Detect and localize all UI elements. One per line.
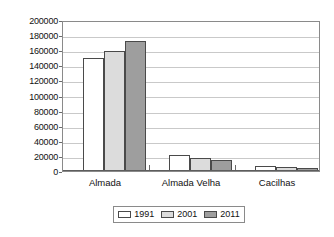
bar-chart: 200000 180000 160000 140000 120000 10000… bbox=[0, 0, 334, 237]
plot-area bbox=[62, 21, 320, 172]
y-tick-label: 200000 bbox=[6, 17, 58, 26]
legend-entry-2001: 2001 bbox=[161, 210, 197, 219]
legend-entry-1991: 1991 bbox=[118, 210, 154, 219]
bar-almada-2001 bbox=[104, 51, 125, 171]
gridline bbox=[63, 52, 319, 53]
bar-almada-velha-1991 bbox=[169, 155, 190, 171]
chart-legend: 1991 2001 2011 bbox=[113, 206, 245, 223]
legend-label: 2011 bbox=[220, 210, 239, 219]
y-tick-label: 40000 bbox=[6, 138, 58, 147]
bar-almada-2011 bbox=[125, 41, 146, 171]
legend-swatch-icon bbox=[118, 211, 131, 218]
y-tick-label: 60000 bbox=[6, 123, 58, 132]
y-tick-label: 20000 bbox=[6, 153, 58, 162]
category-label-cacilhas: Cacilhas bbox=[234, 177, 320, 188]
y-tick-label: 140000 bbox=[6, 62, 58, 71]
y-tick-label: 120000 bbox=[6, 77, 58, 86]
y-tick-label: 0 bbox=[6, 168, 58, 177]
legend-label: 2001 bbox=[177, 210, 197, 219]
gridline bbox=[63, 37, 319, 38]
legend-entry-2011: 2011 bbox=[204, 210, 239, 219]
bar-almada-1991 bbox=[83, 58, 104, 171]
legend-label: 1991 bbox=[134, 210, 154, 219]
legend-swatch-icon bbox=[161, 211, 174, 218]
y-tick-label: 180000 bbox=[6, 32, 58, 41]
category-label-almada-velha: Almada Velha bbox=[148, 177, 234, 188]
y-tick-mark bbox=[59, 172, 62, 173]
y-tick-label: 80000 bbox=[6, 108, 58, 117]
y-tick-label: 160000 bbox=[6, 47, 58, 56]
x-axis-baseline bbox=[63, 170, 319, 171]
category-label-almada: Almada bbox=[62, 177, 148, 188]
y-tick-label: 100000 bbox=[6, 93, 58, 102]
legend-swatch-icon bbox=[204, 211, 217, 218]
